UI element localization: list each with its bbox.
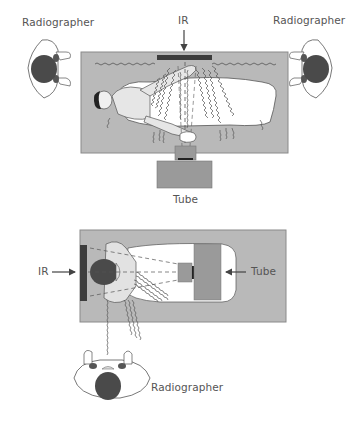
tube-collimator-bottom: [178, 263, 192, 282]
tube-collimator-top: [175, 146, 196, 160]
tube-port-bottom: [192, 266, 194, 279]
ir-bar-bottom: [80, 245, 87, 301]
bottom-view: [52, 230, 286, 400]
tube-housing-top: [157, 161, 212, 188]
tube-label-top: Tube: [173, 193, 198, 205]
tube-port-top: [178, 158, 193, 160]
patient-hand-top: [180, 132, 196, 143]
radiographer-bottom-figure: [74, 350, 150, 400]
radiographer-right-figure: [290, 40, 333, 98]
tube-housing-bottom: [194, 244, 221, 300]
ir-label-top: IR: [178, 14, 189, 26]
radiographer-left-figure: [28, 40, 71, 98]
top-view: [28, 30, 332, 188]
radiographer-label-right: Radiographer: [273, 14, 345, 26]
ir-label-bottom: IR: [38, 265, 49, 277]
diagram-canvas: [0, 0, 360, 424]
radiographer-label-bottom: Radiographer: [151, 381, 223, 393]
tube-label-bottom: Tube: [251, 265, 276, 277]
ir-bar-top: [157, 55, 212, 60]
radiographer-label-left: Radiographer: [22, 16, 94, 28]
